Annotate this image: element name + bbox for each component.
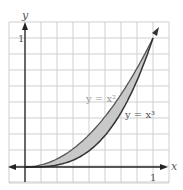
curve-label-x-cubed: y = x³	[124, 109, 155, 120]
chart: y x 1 1 y = x² y = x³	[0, 0, 183, 190]
y-tick-label: 1	[18, 33, 24, 44]
curve-label-x-squared: y = x²	[85, 93, 116, 104]
x-axis-right-arrow-icon	[160, 164, 168, 170]
y-axis-arrow-icon	[22, 22, 28, 30]
x-axis-label: x	[171, 160, 178, 173]
y-axis-label: y	[21, 9, 29, 22]
x-tick-label: 1	[150, 172, 156, 183]
